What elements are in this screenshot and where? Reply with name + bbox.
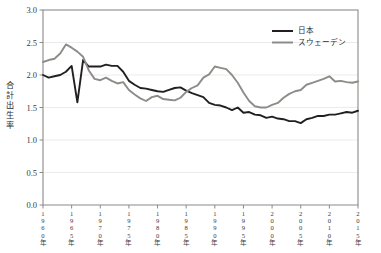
x-tick-label-char: 年 [326, 238, 333, 247]
x-tick-label-char: 9 [213, 217, 217, 224]
x-tick-label-char: 年 [68, 238, 75, 247]
x-tick-label-char: 7 [127, 224, 131, 231]
x-tick-label-char: 1 [356, 224, 359, 231]
x-tick-label-char: 9 [213, 224, 217, 231]
x-tick-label-char: 1 [213, 210, 216, 217]
legend-label-sweden: スウェーデン [298, 37, 346, 47]
y-tick-label: 1.5 [26, 103, 37, 113]
x-tick-label-char: 0 [213, 232, 217, 239]
y-axis-title-char: 出 [6, 100, 14, 110]
x-tick-label-char: 0 [328, 232, 332, 239]
x-tick-label-char: 年 [154, 238, 161, 247]
x-tick-label-char: 年 [297, 238, 304, 247]
x-axis: 1960年1965年1970年1975年1980年1985年1990年1995年… [40, 205, 362, 247]
x-tick-label-char: 9 [242, 217, 246, 224]
x-tick-label-char: 2 [270, 210, 273, 217]
x-tick-label-char: 年 [183, 238, 190, 247]
x-tick-label-char: 0 [270, 232, 274, 239]
x-tick-label-char: 年 [240, 238, 247, 247]
x-tick-label-char: 0 [299, 224, 303, 231]
x-tick-label-char: 2 [328, 210, 331, 217]
x-tick-label-char: 0 [328, 217, 332, 224]
legend-label-japan: 日本 [298, 25, 314, 35]
x-tick-label-char: 年 [97, 238, 104, 247]
x-tick-label-char: 5 [127, 232, 131, 239]
x-tick-label-char: 年 [269, 238, 276, 247]
x-tick-label-char: 5 [242, 232, 246, 239]
x-tick-label-char: 5 [356, 232, 360, 239]
x-tick-label-char: 9 [70, 217, 74, 224]
x-tick-label-char: 2 [299, 210, 302, 217]
x-tick-label-char: 年 [125, 238, 132, 247]
x-tick-label-char: 0 [41, 232, 45, 239]
y-tick-label: 1.0 [26, 135, 37, 145]
x-tick-label-char: 2 [356, 210, 359, 217]
x-tick-label-char: 0 [270, 217, 274, 224]
x-tick-label-char: 0 [356, 217, 360, 224]
x-tick-label-char: 1 [328, 224, 331, 231]
y-tick-label: 2.0 [26, 70, 37, 80]
x-tick-label-char: 7 [99, 224, 103, 231]
y-axis-title-char: 合 [6, 80, 14, 90]
x-tick-label-char: 9 [242, 224, 246, 231]
x-tick-label-char: 1 [41, 210, 44, 217]
x-tick-label-char: 0 [99, 232, 103, 239]
y-axis-title: 合計出生率 [6, 80, 14, 130]
x-tick-label-char: 年 [40, 238, 47, 247]
y-axis-title-char: 計 [6, 90, 14, 100]
y-tick-label: 0.5 [26, 168, 37, 178]
x-tick-label-char: 1 [242, 210, 245, 217]
x-tick-label-char: 5 [185, 232, 189, 239]
x-tick-label-char: 1 [156, 210, 159, 217]
x-tick-label-char: 8 [156, 224, 160, 231]
y-tick-label: 2.5 [26, 38, 37, 48]
x-tick-label-char: 6 [41, 224, 45, 231]
x-tick-label-char: 年 [211, 238, 218, 247]
y-axis: 0.00.51.01.52.02.53.0 [26, 5, 43, 210]
legend: 日本スウェーデン [272, 25, 346, 47]
x-tick-label-char: 9 [41, 217, 45, 224]
x-tick-label-char: 9 [185, 217, 189, 224]
x-tick-label-char: 年 [355, 238, 362, 247]
x-tick-label-char: 9 [127, 217, 131, 224]
x-tick-label-char: 0 [299, 217, 303, 224]
fertility-rate-line-chart: 0.00.51.01.52.02.53.0合計出生率1960年1965年1970… [0, 0, 381, 253]
x-tick-label-char: 1 [99, 210, 102, 217]
data-series [43, 44, 358, 123]
y-axis-title-char: 生 [6, 110, 14, 120]
x-tick-label-char: 1 [185, 210, 188, 217]
x-tick-label-char: 9 [156, 217, 160, 224]
x-tick-label-char: 1 [127, 210, 130, 217]
series-line-sweden [43, 44, 358, 107]
series-line-japan [43, 60, 358, 123]
x-tick-label-char: 8 [185, 224, 189, 231]
y-tick-label: 0.0 [26, 200, 37, 210]
x-tick-label-char: 5 [299, 232, 303, 239]
x-tick-label-char: 9 [99, 217, 103, 224]
x-tick-label-char: 1 [70, 210, 73, 217]
x-tick-label-char: 0 [270, 224, 274, 231]
x-tick-label-char: 5 [70, 232, 74, 239]
x-tick-label-char: 6 [70, 224, 74, 231]
chart-canvas: 0.00.51.01.52.02.53.0合計出生率1960年1965年1970… [0, 0, 381, 253]
y-axis-title-char: 率 [6, 120, 14, 130]
x-tick-label-char: 0 [156, 232, 160, 239]
y-tick-label: 3.0 [26, 5, 37, 15]
